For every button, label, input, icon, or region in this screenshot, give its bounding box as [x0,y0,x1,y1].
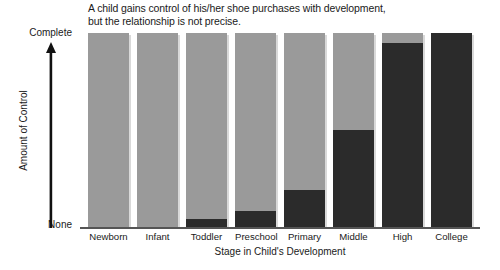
y-axis-arrow-icon [45,42,57,228]
bar-fill-primary [284,190,325,227]
bar-fill-high [382,43,423,227]
y-axis-bottom-tick-label: None [6,219,72,230]
bar-newborn [88,33,129,227]
bar-fill-middle [333,130,374,227]
bar-shadow-right [374,35,376,229]
bar-high [382,33,423,227]
x-tick-newborn: Newborn [88,231,129,242]
bar-fill-college [431,33,472,227]
x-axis-title: Stage in Child's Development [88,246,472,257]
x-tick-middle: Middle [333,231,374,242]
bar-shadow-right [129,35,131,229]
bar-primary [284,33,325,227]
x-tick-college: College [431,231,472,242]
x-axis-tick-labels: Newborn Infant Toddler Preschool Primary… [88,231,472,242]
y-axis-top-tick-label: Complete [6,27,72,38]
chart-title: A child gains control of his/her shoe pu… [88,2,488,27]
y-axis-title: Amount of Control [18,46,29,216]
x-tick-infant: Infant [137,231,178,242]
bar-infant [137,33,178,227]
x-tick-preschool: Preschool [235,231,276,242]
bar-toddler [186,33,227,227]
chart-title-line-1: A child gains control of his/her shoe pu… [88,2,488,15]
x-tick-high: High [382,231,423,242]
bar-shadow-right [472,35,474,229]
bar-shadow-right [276,35,278,229]
bar-preschool [235,33,276,227]
plot-area [88,33,472,227]
bar-shadow-right [178,35,180,229]
bar-shadow-right [325,35,327,229]
x-tick-primary: Primary [284,231,325,242]
bar-shadow-right [423,35,425,229]
bar-college [431,33,472,227]
x-axis-line [80,227,480,229]
chart-figure: A child gains control of his/her shoe pu… [0,0,500,270]
bar-fill-toddler [186,219,227,227]
bar-middle [333,33,374,227]
x-tick-toddler: Toddler [186,231,227,242]
chart-title-line-2: but the relationship is not precise. [88,15,488,28]
bar-fill-preschool [235,211,276,227]
bar-shadow-right [227,35,229,229]
